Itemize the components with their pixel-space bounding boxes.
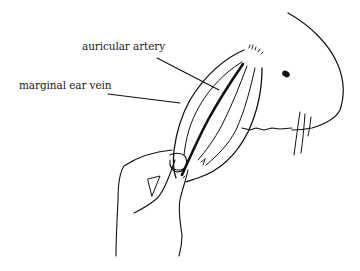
rabbit-ear-illustration bbox=[0, 0, 360, 271]
leader-lines bbox=[108, 58, 219, 103]
label-auricular-artery: auricular artery bbox=[82, 41, 165, 52]
label-marginal-ear-vein: marginal ear vein bbox=[19, 80, 111, 91]
rabbit-head bbox=[242, 13, 343, 155]
diagram-canvas: auricular artery marginal ear vein bbox=[0, 0, 360, 271]
rabbit-eye bbox=[281, 69, 291, 78]
hand bbox=[116, 150, 188, 256]
vein-leader-line bbox=[108, 94, 180, 103]
